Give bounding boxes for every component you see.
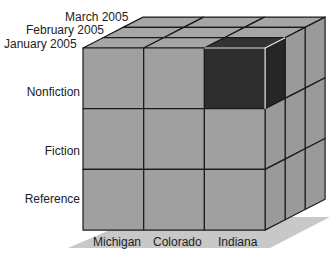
cube-side-cell bbox=[305, 78, 325, 149]
row-label-reference: Reference bbox=[25, 193, 80, 206]
highlighted-cell-front bbox=[204, 48, 265, 109]
column-label-michigan: Michigan bbox=[93, 236, 141, 249]
column-label-indiana: Indiana bbox=[218, 236, 257, 249]
cube-side-cell bbox=[265, 159, 285, 230]
cube-front-cell bbox=[204, 109, 265, 170]
cube-front-cell bbox=[83, 109, 144, 170]
cube-front-cell bbox=[144, 109, 205, 170]
depth-label-february: February 2005 bbox=[26, 24, 104, 37]
cube-side-cell bbox=[305, 139, 325, 210]
row-label-fiction: Fiction bbox=[45, 145, 80, 158]
cube-side-cell bbox=[305, 17, 325, 88]
column-label-colorado: Colorado bbox=[153, 236, 202, 249]
cube-side-cell bbox=[285, 88, 305, 159]
cube-side-cell bbox=[285, 149, 305, 220]
cube-front-cell bbox=[144, 169, 205, 230]
cube-front-cell bbox=[144, 48, 205, 109]
cube-front-cell bbox=[83, 48, 144, 109]
cube-side-cell bbox=[265, 98, 285, 169]
cube-front-cell bbox=[204, 169, 265, 230]
cube-side-cell bbox=[285, 27, 305, 98]
depth-label-january: January 2005 bbox=[4, 38, 77, 51]
row-label-nonfiction: Nonfiction bbox=[27, 86, 80, 99]
cube-front-cell bbox=[83, 169, 144, 230]
cube-side-cell bbox=[265, 38, 285, 109]
